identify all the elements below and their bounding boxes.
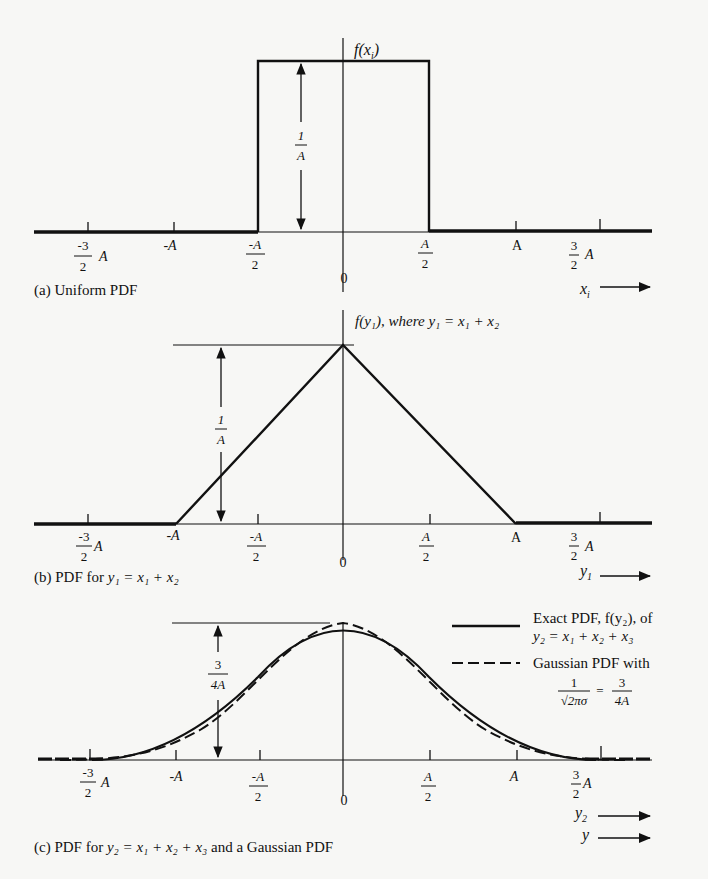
svg-text:A: A (216, 432, 225, 447)
svg-text:-A: -A (252, 769, 264, 784)
pdf-convolution-figure: 1 A f(xi) -3 2 A -A -A 2 0 A 2 A 3 2 A x… (0, 0, 708, 879)
caption-c: (c) PDF for y₂ = x₁ + x₂ + x₃ and a Gaus… (34, 839, 333, 856)
svg-text:4A: 4A (211, 677, 226, 692)
svg-text:3: 3 (619, 675, 626, 690)
panel-b-triangle-pdf: 1 A f(y₁), where y₁ = x₁ + x₂ -3 2 A -A … (34, 310, 652, 586)
svg-text:A: A (512, 238, 523, 253)
caption-a: (a) Uniform PDF (34, 282, 137, 299)
legend-solid-label-1: Exact PDF, f(y₂), of (533, 610, 652, 627)
svg-text:3: 3 (571, 238, 578, 253)
panel-c-gaussian-comparison: 3 4A Exact PDF, f(y₂), of y₂ = x₁ + x₂ +… (34, 610, 652, 856)
svg-text:4A: 4A (615, 693, 630, 708)
svg-text:2: 2 (253, 549, 260, 564)
legend-solid-label-2: y₂ = x₁ + x₂ + x₃ (531, 628, 633, 644)
x-axis-label-y: y (580, 826, 590, 844)
svg-text:-A: -A (249, 237, 261, 252)
caption-b: (b) PDF for y₁ = x₁ + x₂ (34, 569, 179, 586)
svg-text:A: A (509, 769, 519, 784)
y-axis-label: f(xi) (354, 41, 379, 61)
x-axis-label: y2 (573, 804, 587, 824)
svg-text:2: 2 (571, 548, 578, 563)
svg-text:3: 3 (573, 767, 580, 782)
svg-text:-A: -A (166, 528, 180, 543)
svg-text:-3: -3 (83, 765, 94, 780)
svg-text:A: A (584, 539, 594, 554)
svg-text:-A: -A (250, 529, 262, 544)
svg-text:3: 3 (571, 529, 578, 544)
svg-text:2: 2 (81, 549, 88, 564)
svg-text:2: 2 (252, 257, 259, 272)
svg-text:0: 0 (340, 555, 347, 570)
svg-text:A: A (582, 776, 592, 791)
svg-text:A: A (420, 236, 429, 251)
svg-text:2: 2 (425, 789, 432, 804)
svg-text:2: 2 (422, 256, 429, 271)
triangle-curve (176, 345, 516, 524)
svg-text:A: A (100, 775, 110, 790)
svg-text:0: 0 (341, 793, 348, 808)
height-num: 1 (298, 128, 305, 143)
y-axis-label: f(y₁), where y₁ = x₁ + x₂ (355, 313, 499, 330)
svg-text:-3: -3 (78, 238, 89, 253)
panel-a-uniform-pdf: 1 A f(xi) -3 2 A -A -A 2 0 A 2 A 3 2 A x… (34, 38, 652, 300)
height-den: A (296, 148, 305, 163)
svg-text:A: A (584, 247, 594, 262)
x-axis-label: xi (579, 280, 590, 300)
svg-text:-A: -A (169, 769, 183, 784)
svg-text:A: A (93, 539, 103, 554)
svg-text:1: 1 (571, 675, 578, 690)
legend: Exact PDF, f(y₂), of y₂ = x₁ + x₂ + x₃ G… (452, 610, 652, 708)
svg-text:2: 2 (571, 257, 578, 272)
x-axis-label: y1 (578, 562, 592, 582)
svg-text:2: 2 (85, 785, 92, 800)
svg-text:0: 0 (341, 271, 348, 286)
tick-labels: -3 2 A -A -A 2 0 A 2 A 3 2 A (74, 236, 594, 286)
exact-pdf-curve (92, 631, 596, 761)
svg-text:A: A (421, 529, 430, 544)
svg-text:-A: -A (163, 238, 177, 253)
svg-text:2: 2 (255, 789, 262, 804)
svg-text:A: A (98, 249, 108, 264)
svg-text:-3: -3 (79, 529, 90, 544)
svg-text:1: 1 (218, 412, 225, 427)
svg-text:=: = (596, 683, 603, 698)
svg-text:A: A (511, 530, 522, 545)
svg-text:A: A (423, 769, 432, 784)
svg-text:√2πσ: √2πσ (561, 693, 588, 708)
svg-text:3: 3 (215, 657, 222, 672)
svg-text:2: 2 (423, 549, 430, 564)
svg-text:2: 2 (80, 259, 87, 274)
svg-text:2: 2 (573, 786, 580, 801)
legend-dashed-label: Gaussian PDF with (533, 655, 650, 671)
